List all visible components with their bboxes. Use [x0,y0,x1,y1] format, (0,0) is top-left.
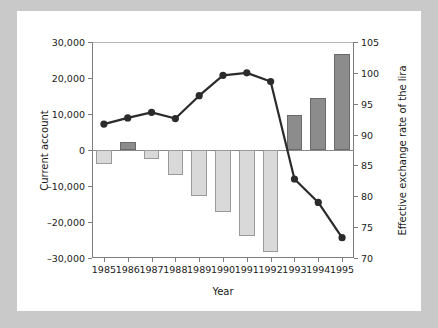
y-tick-right-0 [354,42,358,43]
line-marker-1992 [267,78,274,85]
line-marker-1993 [291,175,298,182]
y-tick-left-2 [88,114,92,115]
y-tick-label-right-5: 80 [361,191,373,202]
x-tick-label-1985: 1985 [92,264,116,275]
x-tick-1994 [318,258,319,262]
y-tick-label-left-0: 30,000 [52,37,85,48]
line-marker-1991 [243,69,250,76]
line-series-layer [92,42,354,258]
y-tick-right-5 [354,196,358,197]
exchange-rate-line [104,73,342,238]
line-marker-1985 [100,120,107,127]
y-tick-left-5 [88,222,92,223]
x-tick-1988 [175,258,176,262]
x-tick-label-1994: 1994 [306,264,330,275]
x-tick-label-1989: 1989 [187,264,211,275]
y-tick-right-6 [354,227,358,228]
figure-card: Current account Effective exchange rate … [17,11,421,311]
plot-area: 30,00020,00010,0000–10,000–20,000–30,000… [92,42,354,258]
y-tick-right-1 [354,73,358,74]
x-tick-label-1988: 1988 [163,264,187,275]
y-tick-left-3 [88,150,92,151]
y-tick-right-4 [354,165,358,166]
y-tick-label-right-2: 95 [361,98,373,109]
x-tick-1989 [199,258,200,262]
y-tick-right-7 [354,258,358,259]
y-axis-title-left-text: Current account [39,110,50,191]
y-tick-label-left-4: –10,000 [47,181,85,192]
line-marker-1994 [315,199,322,206]
y-tick-label-right-6: 75 [361,222,373,233]
x-tick-1993 [294,258,295,262]
y-tick-label-right-7: 70 [361,253,373,264]
x-tick-label-1990: 1990 [211,264,235,275]
y-tick-right-3 [354,135,358,136]
y-tick-left-4 [88,186,92,187]
line-marker-1989 [196,92,203,99]
x-tick-1995 [342,258,343,262]
line-marker-1995 [338,234,345,241]
y-tick-label-right-4: 85 [361,160,373,171]
line-marker-1987 [148,109,155,116]
x-tick-1991 [247,258,248,262]
x-tick-1990 [223,258,224,262]
y-tick-label-right-1: 100 [361,67,379,78]
y-tick-right-2 [354,104,358,105]
x-tick-label-1992: 1992 [259,264,283,275]
x-tick-label-1995: 1995 [330,264,354,275]
x-tick-1992 [271,258,272,262]
y-tick-label-left-3: 0 [79,145,85,156]
y-tick-label-left-2: 10,000 [52,109,85,120]
y-tick-label-left-1: 20,000 [52,73,85,84]
y-axis-title-right-text: Effective exchange rate of the lira [397,65,408,235]
y-tick-label-left-6: –30,000 [47,253,85,264]
x-tick-label-1993: 1993 [282,264,306,275]
x-tick-1985 [104,258,105,262]
x-tick-1986 [128,258,129,262]
y-tick-label-right-3: 90 [361,129,373,140]
y-tick-left-0 [88,42,92,43]
y-axis-title-right: Effective exchange rate of the lira [395,42,409,258]
x-axis-title: Year [92,286,354,297]
x-tick-label-1986: 1986 [116,264,140,275]
y-tick-left-6 [88,258,92,259]
y-tick-left-1 [88,78,92,79]
y-tick-label-left-5: –20,000 [47,217,85,228]
y-tick-label-right-0: 105 [361,37,379,48]
x-tick-label-1991: 1991 [235,264,259,275]
line-marker-1986 [124,114,131,121]
x-tick-label-1987: 1987 [139,264,163,275]
line-marker-1988 [172,115,179,122]
x-tick-1987 [152,258,153,262]
line-marker-1990 [219,72,226,79]
